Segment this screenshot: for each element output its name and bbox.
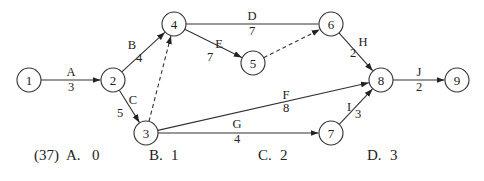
question-number: (37) xyxy=(34,147,59,164)
activity-label-C: C xyxy=(129,93,137,107)
node-2: 2 xyxy=(101,68,125,92)
activity-label-I: I xyxy=(347,100,351,114)
node-number: 5 xyxy=(250,56,257,71)
network-diagram: A3B4C5D7E7F8G4H2I3J2 123456789 xyxy=(0,0,484,150)
option-a-value: 0 xyxy=(92,147,100,164)
option-b-value: 1 xyxy=(171,147,179,164)
option-c-letter: C. xyxy=(258,147,272,164)
node-8: 8 xyxy=(369,68,393,92)
duration-label-H: 2 xyxy=(350,46,356,60)
node-number: 8 xyxy=(378,73,385,88)
node-7: 7 xyxy=(319,121,343,145)
activity-label-D: D xyxy=(247,9,256,23)
dummy-arrow-3-4 xyxy=(149,36,171,121)
duration-label-I: 3 xyxy=(355,107,361,121)
node-number: 3 xyxy=(143,126,150,141)
activity-label-J: J xyxy=(417,65,422,79)
duration-label-C: 5 xyxy=(117,106,123,120)
nodes: 123456789 xyxy=(17,12,469,145)
activity-arrow-E xyxy=(185,29,242,57)
duration-label-D: 7 xyxy=(249,24,255,38)
activity-label-A: A xyxy=(66,65,75,79)
node-number: 2 xyxy=(110,73,117,88)
option-d-letter: D. xyxy=(367,147,382,164)
duration-label-G: 4 xyxy=(234,132,241,146)
answer-options: (37) A. 0 B. 1 C. 2 D. 3 xyxy=(0,147,484,169)
node-number: 6 xyxy=(328,17,335,32)
activity-label-E: E xyxy=(215,37,223,51)
node-number: 1 xyxy=(26,73,33,88)
node-number: 9 xyxy=(454,73,461,88)
node-5: 5 xyxy=(241,51,265,75)
duration-label-A: 3 xyxy=(68,80,74,94)
node-1: 1 xyxy=(17,68,41,92)
node-9: 9 xyxy=(445,68,469,92)
node-6: 6 xyxy=(319,12,343,36)
duration-label-F: 8 xyxy=(283,101,289,115)
node-4: 4 xyxy=(162,12,186,36)
option-c-value: 2 xyxy=(280,147,288,164)
option-d-value: 3 xyxy=(390,147,398,164)
dummy-arrow-5-6 xyxy=(264,30,320,58)
activity-label-G: G xyxy=(232,117,241,131)
duration-label-E: 7 xyxy=(207,50,213,64)
node-3: 3 xyxy=(134,121,158,145)
node-number: 7 xyxy=(328,126,335,141)
duration-label-J: 2 xyxy=(416,80,422,94)
activity-label-B: B xyxy=(128,38,136,52)
activity-label-H: H xyxy=(358,35,367,49)
activity-label-F: F xyxy=(283,88,290,102)
option-a-letter: A. xyxy=(66,147,81,164)
duration-label-B: 4 xyxy=(136,51,143,65)
option-b-letter: B. xyxy=(149,147,163,164)
node-number: 4 xyxy=(171,17,178,32)
